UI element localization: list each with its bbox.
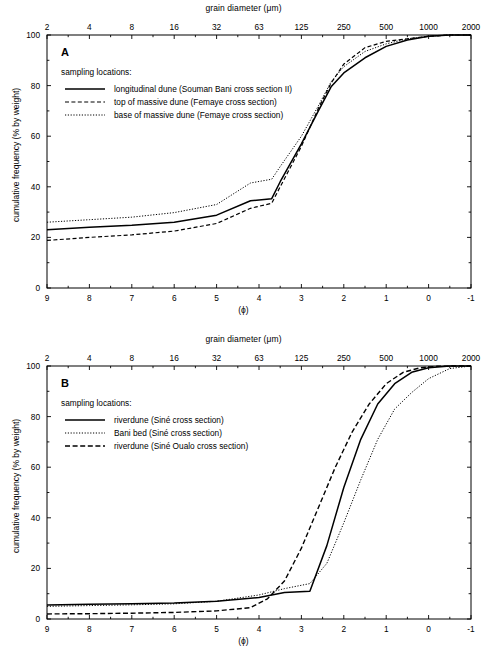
y-tick-label: 20 bbox=[31, 563, 41, 573]
x-tick-top: 2000 bbox=[462, 353, 481, 363]
x-tick-top: 2 bbox=[45, 353, 50, 363]
panel-letter: A bbox=[61, 46, 69, 58]
y-tick-label: 60 bbox=[31, 131, 41, 141]
y-tick-label: 100 bbox=[26, 30, 40, 40]
x-tick-top: 4 bbox=[87, 353, 92, 363]
x-tick-top: 4 bbox=[87, 22, 92, 32]
x-tick-top: 63 bbox=[254, 353, 264, 363]
x-tick-top: 2 bbox=[45, 22, 50, 32]
legend-item-label: riverdune (Siné cross section) bbox=[114, 415, 224, 425]
bottom-axis-title-a: (ϕ) bbox=[0, 305, 487, 315]
panel-letter: B bbox=[61, 377, 69, 389]
x-tick-bottom: 8 bbox=[87, 624, 92, 634]
x-tick-bottom: -1 bbox=[467, 293, 475, 303]
x-tick-bottom: 1 bbox=[384, 293, 389, 303]
y-tick-label: 40 bbox=[31, 182, 41, 192]
x-tick-bottom: -1 bbox=[467, 624, 475, 634]
x-tick-bottom: 9 bbox=[45, 293, 50, 303]
y-tick-label: 100 bbox=[26, 361, 40, 371]
x-tick-top: 250 bbox=[337, 353, 351, 363]
y-tick-label: 0 bbox=[35, 283, 40, 293]
x-tick-bottom: 7 bbox=[129, 293, 134, 303]
x-tick-bottom: 1 bbox=[384, 624, 389, 634]
x-tick-top: 500 bbox=[379, 22, 393, 32]
y-tick-label: 60 bbox=[31, 462, 41, 472]
x-tick-bottom: 3 bbox=[299, 293, 304, 303]
x-tick-bottom: 0 bbox=[426, 293, 431, 303]
y-tick-label: 80 bbox=[31, 81, 41, 91]
x-tick-top: 250 bbox=[337, 22, 351, 32]
legend-header: sampling locations: bbox=[61, 67, 132, 77]
series-line bbox=[47, 35, 471, 240]
x-tick-top: 125 bbox=[294, 353, 308, 363]
x-tick-bottom: 9 bbox=[45, 624, 50, 634]
legend-item-label: riverdune (Siné Oualo cross section) bbox=[114, 441, 248, 451]
series-line bbox=[47, 35, 471, 222]
y-tick-label: 40 bbox=[31, 513, 41, 523]
legend-header: sampling locations: bbox=[61, 398, 132, 408]
x-tick-top: 16 bbox=[170, 22, 180, 32]
x-tick-bottom: 7 bbox=[129, 624, 134, 634]
x-tick-top: 63 bbox=[254, 22, 264, 32]
x-tick-bottom: 6 bbox=[172, 624, 177, 634]
x-tick-top: 125 bbox=[294, 22, 308, 32]
y-tick-label: 80 bbox=[31, 412, 41, 422]
x-tick-top: 1000 bbox=[419, 22, 438, 32]
x-tick-bottom: 3 bbox=[299, 624, 304, 634]
legend-item-label: Bani bed (Siné cross section) bbox=[114, 428, 222, 438]
x-tick-top: 16 bbox=[170, 353, 180, 363]
x-tick-top: 2000 bbox=[462, 22, 481, 32]
x-tick-bottom: 5 bbox=[214, 624, 219, 634]
x-tick-bottom: 6 bbox=[172, 293, 177, 303]
legend-item-label: base of massive dune (Femaye cross secti… bbox=[114, 110, 283, 120]
plot-area-b: 9876543210-12481632631252505001000200002… bbox=[0, 331, 487, 636]
panel-b: grain diameter (μm) cumulative frequency… bbox=[0, 331, 487, 662]
x-tick-bottom: 0 bbox=[426, 624, 431, 634]
x-tick-bottom: 2 bbox=[341, 624, 346, 634]
plot-area-a: 9876543210-12481632631252505001000200002… bbox=[0, 0, 487, 305]
x-tick-top: 32 bbox=[212, 353, 222, 363]
x-tick-bottom: 2 bbox=[341, 293, 346, 303]
x-tick-bottom: 4 bbox=[257, 293, 262, 303]
x-tick-top: 8 bbox=[129, 22, 134, 32]
series-line bbox=[47, 35, 471, 230]
y-tick-label: 20 bbox=[31, 232, 41, 242]
x-tick-top: 1000 bbox=[419, 353, 438, 363]
bottom-axis-title-b: (ϕ) bbox=[0, 636, 487, 646]
legend-item-label: top of massive dune (Femaye cross sectio… bbox=[114, 97, 277, 107]
panel-a: grain diameter (μm) cumulative frequency… bbox=[0, 0, 487, 331]
x-tick-bottom: 5 bbox=[214, 293, 219, 303]
legend-item-label: longitudinal dune (Souman Bani cross sec… bbox=[114, 84, 292, 94]
x-tick-top: 500 bbox=[379, 353, 393, 363]
x-tick-bottom: 8 bbox=[87, 293, 92, 303]
x-tick-bottom: 4 bbox=[257, 624, 262, 634]
y-tick-label: 0 bbox=[35, 614, 40, 624]
x-tick-top: 8 bbox=[129, 353, 134, 363]
x-tick-top: 32 bbox=[212, 22, 222, 32]
